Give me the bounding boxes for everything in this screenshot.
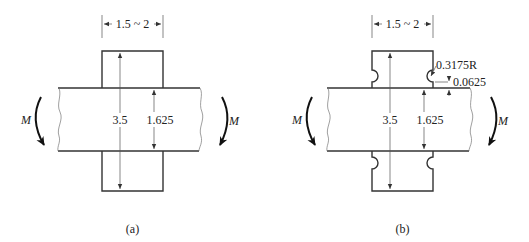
moment-label-left-b: M — [291, 113, 303, 127]
top-block-a — [102, 51, 163, 88]
moment-arrow-right-b — [489, 97, 496, 145]
caption-b: (b) — [396, 222, 410, 236]
top-block-notched-b — [372, 51, 433, 88]
caption-a: (a) — [126, 222, 139, 236]
break-line-left-a — [58, 88, 61, 151]
break-line-right-a — [199, 88, 203, 151]
width-label-b: 1.5 ~ 2 — [386, 17, 420, 31]
moment-label-left-a: M — [20, 113, 32, 127]
diagram-canvas: 1.5 ~ 2 3.5 1.625 M M (a) 1. — [0, 0, 529, 242]
break-line-left-b — [327, 88, 330, 151]
width-label-a: 1.5 ~ 2 — [116, 17, 150, 31]
bottom-block-notched-b — [372, 151, 433, 191]
notch-offset-label: 0.0625 — [453, 75, 486, 89]
moment-arrow-right-a — [220, 97, 227, 145]
height-label-b: 3.5 — [383, 113, 398, 127]
height-label-a: 3.5 — [113, 113, 128, 127]
moment-label-right-b: M — [497, 114, 509, 128]
bottom-block-a — [102, 151, 163, 191]
thickness-label-a: 1.625 — [147, 113, 174, 127]
thickness-label-b: 1.625 — [417, 113, 444, 127]
moment-label-right-a: M — [228, 114, 240, 128]
moment-arrow-left-b — [307, 97, 315, 145]
figure-a: 1.5 ~ 2 3.5 1.625 M M (a) — [20, 15, 240, 236]
moment-arrow-left-a — [36, 97, 44, 145]
notch-radius-label: 0.3175R — [436, 58, 477, 72]
break-line-right-b — [469, 88, 473, 151]
figure-b: 1.5 ~ 2 3.5 1.625 0.3175R 0.0625 M M (b) — [291, 15, 509, 236]
